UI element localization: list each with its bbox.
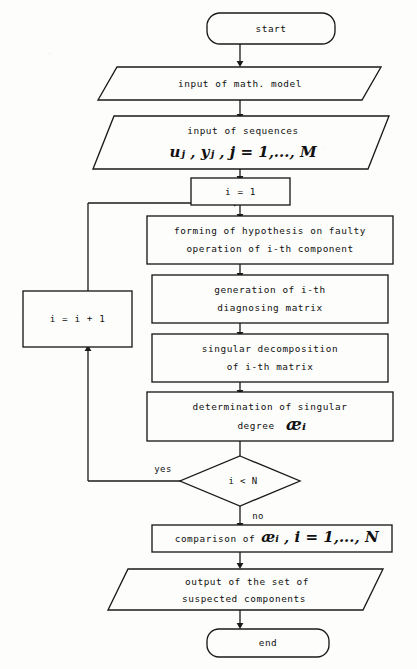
output-label-line2: suspected components <box>182 593 306 604</box>
decomposition-label-line2: of i-th matrix <box>227 361 314 372</box>
start-label: start <box>256 23 287 34</box>
node-hypothesis[interactable]: forming of hypothesis on faulty operatio… <box>147 216 393 264</box>
node-decision[interactable]: i < N <box>180 456 300 506</box>
input-math-model-label: input of math. model <box>178 78 302 89</box>
edge-label-no: no <box>252 511 264 521</box>
generation-label-line2: diagnosing matrix <box>217 302 322 313</box>
decomposition-label-line1: singular decomposition <box>202 343 338 354</box>
node-input-math-model[interactable]: input of math. model <box>98 67 381 100</box>
node-generation[interactable]: generation of i-th diagnosing matrix <box>152 275 388 323</box>
degree-shape <box>147 392 393 441</box>
arrow-10 <box>237 623 244 629</box>
hypothesis-label-line2: operation of i-th component <box>186 243 353 254</box>
init-label: i = 1 <box>225 186 256 197</box>
generation-shape <box>152 275 388 323</box>
node-init[interactable]: i = 1 <box>191 178 290 205</box>
generation-label-line1: generation of i-th <box>214 284 326 295</box>
arrow-1 <box>237 61 244 67</box>
comparison-label-math: æᵢ , i = 1,..., N <box>261 528 380 546</box>
degree-label-line2-math: æᵢ <box>286 414 306 434</box>
decision-label: i < N <box>228 476 257 486</box>
output-label-line1: output of the set of <box>185 576 309 587</box>
node-start[interactable]: start <box>207 13 335 44</box>
node-end[interactable]: end <box>207 629 329 657</box>
input-sequences-label-line1: input of sequences <box>187 125 299 136</box>
hypothesis-shape <box>147 216 393 264</box>
flowchart-canvas: start input of math. model input of sequ… <box>0 0 417 669</box>
node-comparison[interactable]: comparison of æᵢ , i = 1,..., N <box>152 525 392 552</box>
comparison-label-word: comparison of <box>175 533 256 544</box>
flowchart-page: start input of math. model input of sequ… <box>0 0 417 669</box>
node-increment[interactable]: i = i + 1 <box>23 291 132 347</box>
degree-label-line2-word: degree <box>237 420 274 431</box>
decomposition-shape <box>152 334 388 382</box>
edge-label-yes: yes <box>154 464 171 474</box>
node-decomposition[interactable]: singular decomposition of i-th matrix <box>152 334 388 382</box>
node-input-sequences[interactable]: input of sequences uⱼ , yⱼ , j = 1,..., … <box>93 116 389 169</box>
node-output[interactable]: output of the set of suspected component… <box>108 569 383 610</box>
increment-label: i = i + 1 <box>50 313 106 324</box>
arrow-9 <box>237 563 244 569</box>
hypothesis-label-line1: forming of hypothesis on faulty <box>174 225 366 236</box>
degree-label-line1: determination of singular <box>193 401 348 412</box>
input-sequences-math: uⱼ , yⱼ , j = 1,..., M <box>169 143 317 161</box>
node-degree[interactable]: determination of singular degree æᵢ <box>147 392 393 441</box>
end-label: end <box>259 637 278 648</box>
